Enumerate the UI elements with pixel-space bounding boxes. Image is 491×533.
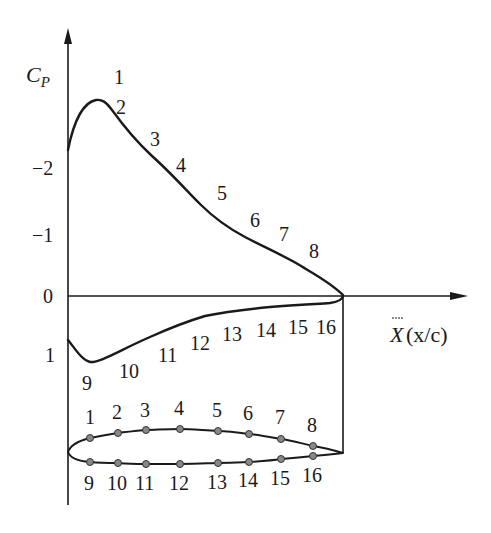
svg-text:15: 15 bbox=[270, 467, 290, 489]
svg-text:1: 1 bbox=[114, 66, 124, 88]
y-tick-neg1: −1 bbox=[32, 224, 53, 246]
svg-text:9: 9 bbox=[82, 372, 92, 394]
svg-text:14: 14 bbox=[238, 469, 258, 491]
svg-text:3: 3 bbox=[140, 399, 150, 421]
svg-text:3: 3 bbox=[150, 128, 160, 150]
svg-text:10: 10 bbox=[119, 360, 139, 382]
x-axis-label: X (x/c) bbox=[389, 318, 448, 347]
svg-text:6: 6 bbox=[250, 209, 260, 231]
y-tick-neg2: −2 bbox=[32, 157, 53, 179]
airfoil-outline bbox=[68, 429, 343, 464]
svg-text:12: 12 bbox=[190, 332, 210, 354]
upper-cp-labels: 1 2 3 4 5 6 7 8 bbox=[114, 66, 319, 262]
airfoil-lower-labels: 9 10 11 12 13 14 15 16 bbox=[84, 464, 322, 494]
svg-text:15: 15 bbox=[288, 316, 308, 338]
svg-text:12: 12 bbox=[169, 472, 189, 494]
svg-text:7: 7 bbox=[275, 406, 285, 428]
svg-text:16: 16 bbox=[316, 316, 336, 338]
svg-text:4: 4 bbox=[174, 397, 184, 419]
svg-text:13: 13 bbox=[207, 471, 227, 493]
svg-text:2: 2 bbox=[112, 401, 122, 423]
svg-text:16: 16 bbox=[302, 464, 322, 486]
x-axis-arrow-icon bbox=[450, 292, 468, 300]
svg-text:13: 13 bbox=[222, 323, 242, 345]
svg-text:6: 6 bbox=[243, 402, 253, 424]
airfoil-lower-taps bbox=[87, 453, 317, 468]
pressure-distribution-diagram: CP −2 −1 0 1 X (x/c) 1 2 3 4 5 6 7 8 9 1… bbox=[0, 0, 491, 533]
svg-text:2: 2 bbox=[116, 96, 126, 118]
svg-text:8: 8 bbox=[307, 414, 317, 436]
svg-text:X: X bbox=[389, 322, 405, 347]
svg-text:4: 4 bbox=[176, 154, 186, 176]
svg-text:11: 11 bbox=[135, 472, 154, 494]
y-axis-arrow-icon bbox=[64, 28, 72, 44]
svg-text:10: 10 bbox=[107, 472, 127, 494]
svg-text:7: 7 bbox=[279, 223, 289, 245]
y-tick-1: 1 bbox=[45, 344, 55, 366]
y-tick-0: 0 bbox=[43, 285, 53, 307]
svg-text:11: 11 bbox=[158, 344, 177, 366]
upper-surface-cp-curve bbox=[68, 100, 343, 295]
svg-text:(x/c): (x/c) bbox=[406, 322, 448, 347]
svg-text:1: 1 bbox=[85, 406, 95, 428]
svg-text:14: 14 bbox=[256, 319, 276, 341]
y-axis-label: CP bbox=[26, 62, 50, 90]
svg-text:5: 5 bbox=[217, 182, 227, 204]
svg-text:8: 8 bbox=[309, 240, 319, 262]
svg-text:5: 5 bbox=[212, 399, 222, 421]
lower-cp-labels: 9 10 11 12 13 14 15 16 bbox=[82, 316, 336, 394]
svg-text:9: 9 bbox=[84, 472, 94, 494]
